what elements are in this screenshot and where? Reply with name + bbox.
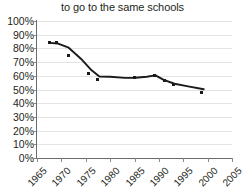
x-axis-tick: [208, 158, 209, 162]
chart-title: to go to the same schools: [0, 1, 245, 13]
y-axis-tick-label: 20%: [0, 126, 34, 136]
y-axis-tick-label: 70%: [0, 57, 34, 67]
x-axis-tick-label: 1970: [47, 165, 73, 188]
x-axis-tick-label: 1995: [169, 165, 195, 188]
x-axis-tick: [110, 158, 111, 162]
data-point-marker: [87, 72, 90, 75]
x-axis-tick: [37, 158, 38, 162]
chart-container: to go to the same schools 0%10%20%30%40%…: [0, 0, 245, 188]
x-axis-tick: [61, 158, 62, 162]
y-axis-tick-label: 0%: [0, 153, 34, 163]
y-axis-tick-label: 50%: [0, 85, 34, 95]
y-axis-tick-label: 10%: [0, 139, 34, 149]
x-axis-tick-label: 1975: [71, 165, 97, 188]
plot-area: [37, 21, 232, 158]
x-axis-tick-label: 1980: [96, 165, 122, 188]
data-point-marker: [96, 78, 99, 81]
x-axis-tick: [159, 158, 160, 162]
x-axis-tick-label: 1985: [120, 165, 146, 188]
data-point-marker: [67, 54, 70, 57]
y-axis-labels: 0%10%20%30%40%50%60%70%80%90%100%: [0, 0, 34, 188]
data-point-marker: [200, 91, 203, 94]
trend-line-series: [37, 21, 232, 158]
data-point-marker: [163, 79, 166, 82]
y-axis-tick-label: 60%: [0, 71, 34, 81]
x-axis-tick: [183, 158, 184, 162]
data-point-marker: [55, 41, 58, 44]
y-axis-tick-label: 30%: [0, 112, 34, 122]
data-point-marker: [153, 74, 156, 77]
y-axis-tick-label: 100%: [0, 16, 34, 26]
data-point-marker: [172, 83, 175, 86]
y-axis-tick-label: 80%: [0, 43, 34, 53]
x-axis-tick-label: 1990: [144, 165, 170, 188]
y-axis-tick-label: 40%: [0, 98, 34, 108]
x-axis-tick: [232, 158, 233, 162]
x-axis-tick-label: 2005: [218, 165, 244, 188]
trend-line-path: [50, 43, 204, 89]
x-axis-tick: [135, 158, 136, 162]
data-point-marker: [133, 76, 136, 79]
x-axis-tick-label: 2000: [193, 165, 219, 188]
data-point-marker: [48, 41, 51, 44]
y-axis-tick-label: 90%: [0, 30, 34, 40]
x-axis-tick: [86, 158, 87, 162]
